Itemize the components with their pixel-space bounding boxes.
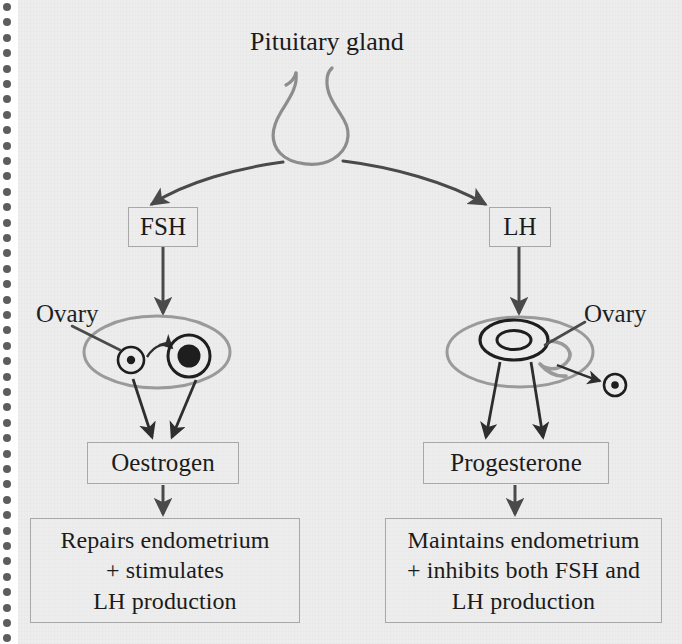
oestrogen-box[interactable]: Oestrogen: [87, 442, 239, 484]
corpus-luteum-outer: [480, 320, 548, 360]
oestrogen-effect-box[interactable]: Repairs endometrium + stimulates LH prod…: [30, 518, 300, 623]
progesterone-effect-box[interactable]: Maintains endometrium + inhibits both FS…: [385, 518, 662, 623]
progesterone-effect-line-3: LH production: [407, 586, 640, 616]
lh-box[interactable]: LH: [489, 207, 551, 247]
arrow-follicle-to-oestrogen-2: [172, 380, 196, 437]
ovary-left-label: Ovary: [36, 300, 98, 328]
fsh-box[interactable]: FSH: [128, 207, 198, 247]
progesterone-effect-line-1: Maintains endometrium: [407, 525, 640, 555]
released-egg-nucleus: [611, 381, 619, 389]
progesterone-box[interactable]: Progesterone: [423, 442, 609, 484]
ovary-left-leader-line: [72, 326, 120, 350]
oestrogen-effect-line-1: Repairs endometrium: [60, 525, 269, 555]
mature-follicle-ovum: [178, 345, 201, 368]
ovary-right-illustration: [447, 317, 626, 396]
arrow-corpus-to-progesterone-1: [486, 362, 500, 437]
immature-follicle-nucleus: [127, 356, 135, 364]
corpus-luteum-inner: [497, 331, 531, 350]
ovary-right-label: Ovary: [584, 300, 646, 328]
oestrogen-effect-line-3: LH production: [60, 586, 269, 616]
ruptured-follicle-crescent: [540, 341, 570, 376]
pituitary-gland-icon: [273, 68, 348, 164]
oestrogen-effect-line-2: + stimulates: [60, 555, 269, 585]
arrow-pituitary-to-lh: [343, 161, 485, 204]
progesterone-effect-line-2: + inhibits both FSH and: [407, 555, 640, 585]
pituitary-gland-label: Pituitary gland: [250, 27, 404, 57]
diagram-page: Pituitary gland FSH LH Ovary Ovary Oestr…: [0, 0, 682, 644]
arrow-corpus-to-progesterone-2: [531, 362, 543, 437]
arrow-pituitary-to-fsh: [152, 162, 283, 204]
